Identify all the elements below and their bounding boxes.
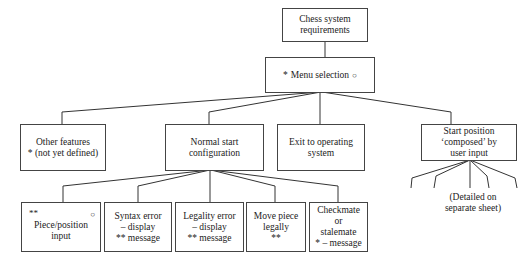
- note-line-2: separate sheet): [425, 203, 521, 214]
- menu-selection-box: * Menu selection ○: [265, 57, 375, 93]
- checkmate-line-4: * – message: [315, 238, 361, 249]
- iteration-circle-icon: ○: [90, 209, 95, 220]
- syntax-line-1: Syntax error: [114, 211, 161, 222]
- chess-system-requirements-box: Chess system requirements: [282, 8, 368, 42]
- other-features-box: Other features * (not yet defined): [20, 124, 106, 171]
- other-features-label: Other features: [36, 137, 90, 148]
- other-features-note: * (not yet defined): [28, 148, 98, 159]
- syntax-error-box: Syntax error – display ** message: [104, 202, 172, 252]
- checkmate-line-1: Checkmate: [317, 205, 360, 216]
- legality-line-2: – display: [192, 222, 227, 233]
- move-line-1: Move piece: [254, 211, 299, 222]
- normal-start-line-2: configuration: [189, 148, 240, 159]
- normal-start-line-1: Normal start: [191, 137, 239, 148]
- double-asterisk-mark: **: [29, 208, 38, 219]
- normal-start-configuration-box: Normal start configuration: [165, 124, 264, 171]
- checkmate-line-2: or: [335, 216, 343, 227]
- exit-line-2: system: [308, 148, 334, 159]
- title-line-1: Chess system: [299, 14, 350, 25]
- start-position-composed-box: Start position ‘composed’ by user input: [421, 124, 517, 161]
- piece-position-input-box: ** ○ Piece/position input: [21, 202, 101, 252]
- menu-selection-label: Menu selection: [291, 70, 349, 81]
- start-line-1: Start position: [444, 126, 495, 137]
- exit-line-1: Exit to operating: [289, 137, 353, 148]
- checkmate-stalemate-box: Checkmate or stalemate * – message: [309, 202, 368, 252]
- checkmate-line-3: stalemate: [321, 227, 357, 238]
- legality-line-3: ** message: [187, 233, 231, 244]
- menu-asterisk: *: [283, 70, 288, 81]
- legality-error-box: Legality error – display ** message: [175, 202, 244, 252]
- move-piece-legally-box: Move piece legally **: [246, 202, 306, 252]
- piece-line-1: Piece/position: [34, 220, 88, 231]
- start-line-3: user input: [450, 148, 488, 159]
- legality-line-1: Legality error: [183, 211, 236, 222]
- piece-line-2: input: [51, 231, 71, 242]
- note-line-1: (Detailed on: [425, 192, 521, 203]
- move-line-2: legally: [263, 222, 289, 233]
- start-line-2: ‘composed’ by: [441, 137, 497, 148]
- move-line-3: **: [271, 233, 281, 244]
- iteration-circle-icon: ○: [352, 70, 357, 81]
- syntax-line-2: – display: [121, 222, 156, 233]
- syntax-line-3: ** message: [116, 233, 160, 244]
- detailed-on-separate-sheet-note: (Detailed on separate sheet): [425, 192, 521, 214]
- title-line-2: requirements: [300, 25, 350, 36]
- exit-to-os-box: Exit to operating system: [277, 124, 365, 171]
